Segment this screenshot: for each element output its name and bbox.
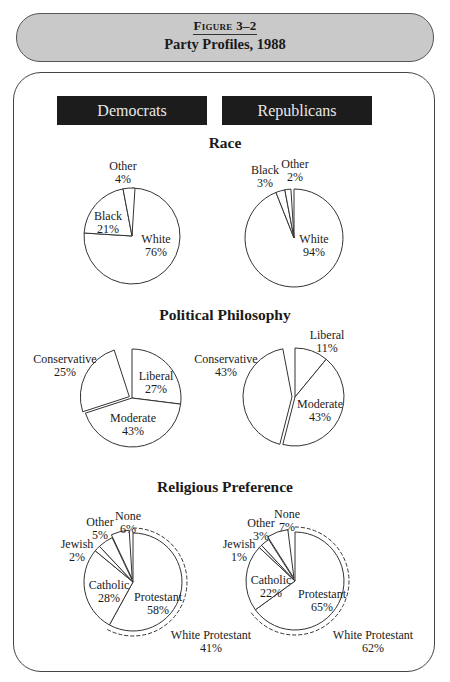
label-white: White94%: [294, 233, 334, 259]
annotation-white-protestant: White Protestant62%: [330, 629, 416, 655]
label-none: None6%: [113, 510, 143, 536]
label-conservative: Conservative25%: [30, 353, 100, 379]
label-liberal: Liberal11%: [307, 329, 347, 355]
pie-charts: [0, 0, 450, 682]
label-catholic: Catholic28%: [86, 579, 132, 605]
label-protestant: Protestant58%: [129, 591, 187, 617]
label-liberal: Liberal27%: [134, 370, 178, 396]
label-black: Black21%: [88, 210, 128, 236]
label-jewish: Jewish1%: [222, 538, 256, 564]
label-moderate: Moderate43%: [292, 398, 348, 424]
label-catholic: Catholic22%: [248, 574, 294, 600]
label-conservative: Conservative43%: [191, 353, 261, 379]
label-moderate: Moderate43%: [105, 412, 161, 438]
annotation-white-protestant: White Protestant41%: [168, 629, 254, 655]
label-other: Other4%: [108, 160, 138, 186]
label-other: Other2%: [280, 158, 310, 184]
label-black: Black3%: [250, 164, 280, 190]
label-none: None7%: [272, 508, 302, 534]
label-jewish: Jewish2%: [60, 538, 94, 564]
label-protestant: Protestant65%: [293, 588, 351, 614]
label-white: White76%: [136, 233, 176, 259]
